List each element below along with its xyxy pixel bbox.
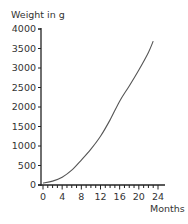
x-axis-label: Months xyxy=(150,204,185,214)
x-tick-label: 0 xyxy=(33,192,53,202)
x-tick-label: 12 xyxy=(91,192,111,202)
y-tick-label: 0 xyxy=(2,180,36,190)
y-tick-label: 3500 xyxy=(2,44,36,54)
y-tick-label: 500 xyxy=(2,161,36,171)
y-tick-label: 4000 xyxy=(2,24,36,34)
x-tick-label: 4 xyxy=(52,192,72,202)
x-tick-label: 24 xyxy=(148,192,168,202)
weight-chart: Weight in g Months 050010001500200025003… xyxy=(0,0,188,224)
y-axis-label: Weight in g xyxy=(11,10,65,20)
y-tick-label: 1000 xyxy=(2,141,36,151)
y-tick-label: 3000 xyxy=(2,63,36,73)
y-tick-label: 2000 xyxy=(2,102,36,112)
weight-curve xyxy=(43,41,153,183)
x-tick-label: 20 xyxy=(129,192,149,202)
y-tick-label: 1500 xyxy=(2,122,36,132)
y-tick-label: 2500 xyxy=(2,83,36,93)
x-tick-label: 16 xyxy=(110,192,130,202)
x-tick-label: 8 xyxy=(71,192,91,202)
